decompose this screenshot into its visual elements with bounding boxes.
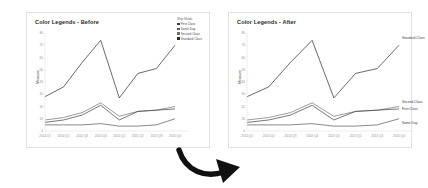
plot-area-after: Measure 01020304050607080 2014 Q12014 Q2… [229,13,411,147]
legend-entry-label: First Class [181,22,196,26]
series-line-first-class [45,105,175,122]
legend-entry[interactable]: Standard Class [177,37,210,41]
direct-label-second-class: Second Class [402,100,422,104]
legend-swatch-icon [177,32,180,35]
legend-entry[interactable]: Second Class [177,32,210,36]
legend-swatch-icon [177,37,180,40]
curved-down-right-arrow-icon [176,142,252,186]
legend-entry[interactable]: Same Day [177,27,210,31]
chart-card-before[interactable]: Color Legends - Before Measure 010203040… [26,12,210,148]
series-line-first-class [247,105,399,122]
legend-before[interactable]: Ship Mode First ClassSame DaySecond Clas… [177,17,210,41]
legend-entry-label: Same Day [181,27,195,31]
direct-label-standard-class: Standard Class [402,36,425,40]
series-line-standard-class [247,40,399,98]
legend-entry-list: First ClassSame DaySecond ClassStandard … [177,22,210,40]
direct-label-first-class: First Class [402,107,418,111]
legend-swatch-icon [177,28,180,31]
axis-spines [247,33,413,131]
series-line-standard-class [45,40,175,98]
screenshot-root: Color Legends - Before Measure 010203040… [0,0,428,188]
series-line-second-class [45,103,175,120]
legend-entry[interactable]: First Class [177,22,210,26]
legend-entry-label: Second Class [181,32,200,36]
chart-card-after[interactable]: Color Legends - After Measure 0102030405… [228,12,412,148]
direct-label-same-day: Same Day [402,121,417,125]
legend-swatch-icon [177,23,180,26]
series-line-second-class [247,103,399,120]
axis-spines [45,33,189,131]
line-plot-after [229,13,413,149]
legend-entry-label: Standard Class [181,37,202,41]
legend-title: Ship Mode [177,17,210,21]
